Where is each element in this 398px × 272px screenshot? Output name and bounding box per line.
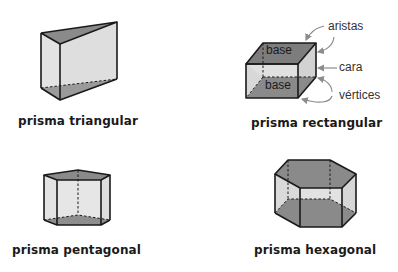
caption-triangular: prisma triangular (18, 114, 138, 128)
prisms-drawing (0, 0, 398, 272)
pentagonal-prism (44, 170, 110, 225)
triangular-prism (41, 22, 117, 100)
hexagonal-prism (275, 160, 356, 227)
caption-pentagonal: prisma pentagonal (12, 243, 141, 257)
caption-hexagonal: prisma hexagonal (254, 243, 376, 257)
annotation-vertices: vértices (339, 88, 380, 102)
annotation-edges: aristas (328, 19, 363, 33)
caption-rectangular: prisma rectangular (251, 116, 382, 130)
base-label-top: base (266, 43, 292, 57)
base-label-bottom: base (265, 78, 291, 92)
prisms-diagram: base base aristas cara vértices prisma t… (0, 0, 398, 272)
annotation-face: cara (339, 60, 362, 74)
